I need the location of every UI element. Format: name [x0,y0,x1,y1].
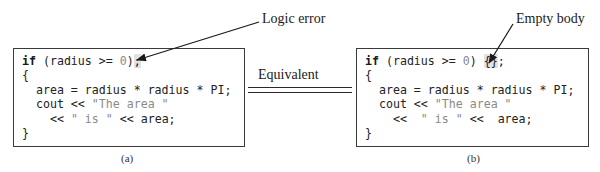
code-line: cout << "The area " [365,97,574,111]
code-text: { [365,68,372,82]
code-text: } [22,126,29,140]
empty-body-annotation: Empty body [516,11,585,27]
code-text: << [22,112,71,126]
code-text: (radius >= [379,54,463,68]
figure: Logic error Empty body if (radius >= 0);… [0,0,600,172]
code-text: << area; [113,112,176,126]
caption-a: (a) [121,152,133,164]
code-line: << " is " << area; [22,112,231,126]
code-text: (radius >= [36,54,120,68]
code-line: if (radius >= 0) {}; [365,54,574,68]
highlighted-token: {} [484,54,498,68]
code-block-b: if (radius >= 0) {};{ area = radius * ra… [365,54,574,140]
code-line: area = radius * radius * PI; [22,83,231,97]
code-line: } [22,126,231,140]
keyword: if [22,54,36,68]
code-text: cout << [22,97,92,111]
code-text: cout << [365,97,435,111]
string-literal: "The area " [92,97,169,111]
code-text: ) [127,54,134,68]
code-text: << area; [463,112,533,126]
code-line: { [22,68,231,82]
highlighted-token: ; [134,54,141,68]
number-literal: 0 [463,54,470,68]
code-panel-b: if (radius >= 0) {};{ area = radius * ra… [356,48,589,147]
equivalence-line-bottom [248,92,352,93]
string-literal: " is " [421,112,463,126]
code-text: { [22,68,29,82]
string-literal: "The area " [435,97,512,111]
code-text: ; [498,54,505,68]
caption-b: (b) [467,152,480,164]
code-line: } [365,126,574,140]
code-text: } [365,126,372,140]
code-text: ) [470,54,484,68]
number-literal: 0 [120,54,127,68]
code-line: { [365,68,574,82]
code-line: cout << "The area " [22,97,231,111]
logic-error-annotation: Logic error [262,11,325,27]
code-panel-a: if (radius >= 0);{ area = radius * radiu… [13,48,245,147]
code-text: area = radius * radius * PI; [365,83,574,97]
code-block-a: if (radius >= 0);{ area = radius * radiu… [22,54,231,140]
string-literal: " is " [71,112,113,126]
equivalent-label: Equivalent [258,67,319,83]
code-line: area = radius * radius * PI; [365,83,574,97]
code-line: << " is " << area; [365,112,574,126]
code-line: if (radius >= 0); [22,54,231,68]
code-text: area = radius * radius * PI; [22,83,231,97]
code-text: << [365,112,421,126]
equivalence-line-top [248,87,352,88]
keyword: if [365,54,379,68]
